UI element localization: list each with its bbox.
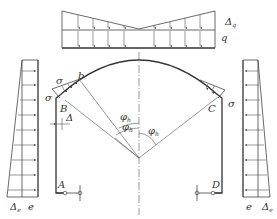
label-sigma-right: σ [228, 98, 236, 109]
top-load-arrows [78, 15, 200, 46]
label-e-left: e [28, 201, 34, 212]
label-C: C [208, 103, 216, 114]
label-A: A [57, 179, 65, 190]
label-delta-e-right: Δe [261, 201, 273, 213]
label-delta: Δ [65, 112, 73, 123]
delta-displacement-marker: Δ [50, 112, 73, 130]
top-load-diagram: Δq q [62, 11, 236, 48]
left-side-load-diagram: Δe e [7, 60, 38, 213]
label-e-right: e [246, 201, 252, 212]
label-q: q [221, 32, 227, 43]
label-phi-h-3: φh [148, 125, 159, 137]
label-phi-h-2: φh [122, 121, 133, 133]
label-delta-e-left: Δe [9, 201, 21, 213]
label-sigma-left-side: σ [45, 92, 53, 103]
label-delta-q: Δq [224, 16, 236, 29]
label-D: D [211, 179, 220, 190]
label-sigma-left-top: σ [56, 75, 64, 86]
right-side-load-diagram: e Δe [243, 60, 273, 213]
angle-rays: φh φh φh [65, 79, 218, 158]
structural-load-diagram: Δq q σ σ b σ B C A D Δ [0, 0, 277, 219]
left-arch-sigma-load: σ σ b [45, 70, 84, 103]
